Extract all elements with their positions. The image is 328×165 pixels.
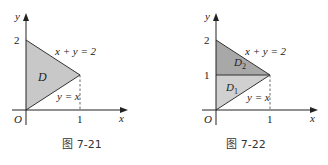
x-axis-arrow-icon xyxy=(310,107,318,113)
region-diagram xyxy=(0,0,164,135)
figure-caption: 图 7-21 xyxy=(0,135,164,151)
x-axis-arrow-icon xyxy=(120,107,128,113)
figure-7-21: y 2 x + y = 2 D y = x O 1 x 图 7-21 xyxy=(0,0,164,165)
region-diagram xyxy=(164,0,328,135)
figure-caption: 图 7-22 xyxy=(164,135,328,151)
region-d xyxy=(26,40,80,110)
figure-7-22: y 2 1 x + y = 2 D2 D1 y = x O 1 x 图 7-22 xyxy=(164,0,328,165)
y-axis-arrow-icon xyxy=(213,13,219,21)
y-axis-arrow-icon xyxy=(23,13,29,21)
